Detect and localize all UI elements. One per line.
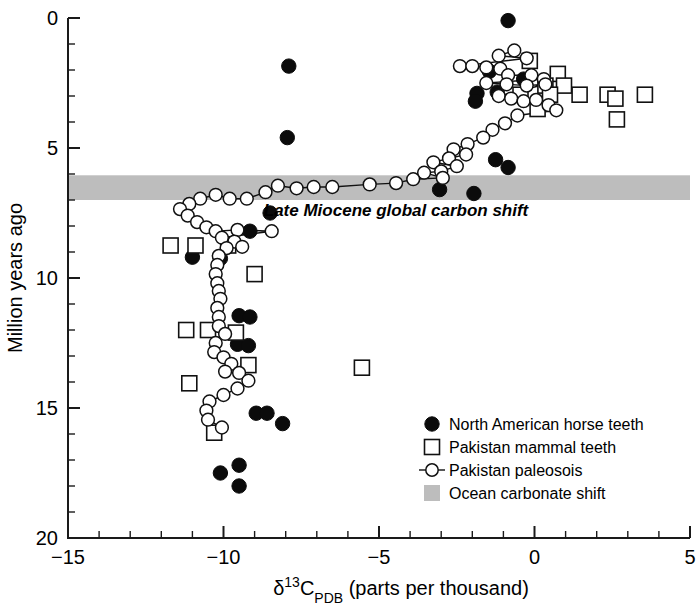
data-point-open-circle <box>363 178 376 191</box>
data-point-open-circle <box>539 78 552 91</box>
data-point-open-circle <box>236 240 249 253</box>
data-point-open-circle <box>520 79 533 92</box>
data-point-open-circle <box>231 224 244 237</box>
chart-figure: 05101520−15−10−505Million years agoδ13CP… <box>0 0 699 614</box>
legend-item-north-american-horse-teeth: North American horse teeth <box>425 416 644 433</box>
data-point-open-square <box>557 78 572 93</box>
ocean-carbonate-shift-band <box>68 175 690 200</box>
data-point-filled-circle <box>232 479 246 493</box>
legend-marker-filled-circle <box>425 417 439 431</box>
data-point-open-circle <box>460 148 473 161</box>
data-point-open-circle <box>217 389 230 402</box>
x-axis-label: δ13CPDB (parts per thousand) <box>273 574 529 606</box>
data-point-filled-circle <box>280 130 294 144</box>
data-point-open-circle <box>436 172 449 185</box>
data-point-open-circle <box>223 192 236 205</box>
legend-item-pakistan-paleosois: Pakistan paleosois <box>419 462 582 479</box>
legend-marker-open-square <box>425 440 440 455</box>
data-point-open-circle <box>492 49 505 62</box>
data-point-open-circle <box>272 179 285 192</box>
legend-label: North American horse teeth <box>449 416 644 433</box>
data-point-open-square <box>354 360 369 375</box>
legend-marker-gray-band <box>424 485 440 501</box>
data-point-open-circle <box>517 95 530 108</box>
x-axis-label-rest: (parts per thousand) <box>343 577 529 599</box>
x-axis-label-c: C <box>300 577 314 599</box>
y-axis-tick-label: 0 <box>47 7 58 29</box>
legend-item-ocean-carbonate-shift: Ocean carbonate shift <box>424 485 606 502</box>
data-point-open-circle <box>480 61 493 74</box>
data-point-open-circle <box>326 181 339 194</box>
legend-item-pakistan-mammal-teeth: Pakistan mammal teeth <box>425 439 617 456</box>
data-point-filled-circle <box>260 406 274 420</box>
data-point-open-circle <box>480 77 493 90</box>
data-point-open-circle <box>209 188 222 201</box>
data-point-filled-circle <box>467 186 481 200</box>
x-axis-label-subscript: PDB <box>314 590 343 606</box>
data-point-open-circle <box>259 186 272 199</box>
data-point-open-circle <box>500 78 513 91</box>
data-point-open-square <box>637 87 652 102</box>
data-point-open-circle <box>290 182 303 195</box>
data-point-filled-circle <box>213 466 227 480</box>
data-point-filled-circle <box>243 310 257 324</box>
data-point-filled-circle <box>282 59 296 73</box>
x-axis-tick-label: −10 <box>207 546 241 568</box>
data-point-filled-circle <box>468 94 482 108</box>
x-axis-tick-label: −5 <box>368 546 391 568</box>
data-point-open-square <box>608 91 623 106</box>
data-point-open-circle <box>508 44 521 57</box>
y-axis-tick-label: 15 <box>36 397 58 419</box>
plot-axes <box>68 18 690 538</box>
y-axis-label: Million years ago <box>4 203 26 353</box>
data-point-open-square <box>609 112 624 127</box>
data-point-open-circle <box>511 109 524 122</box>
data-point-filled-circle <box>501 160 515 174</box>
x-axis-tick-label: 0 <box>529 546 540 568</box>
data-point-open-circle <box>216 421 229 434</box>
x-axis-label-superscript: 13 <box>284 574 300 590</box>
data-point-open-circle <box>505 92 518 105</box>
data-point-open-circle <box>499 117 512 130</box>
data-point-open-circle <box>450 160 463 173</box>
data-point-open-square <box>247 267 262 282</box>
legend-label: Pakistan paleosois <box>449 462 582 479</box>
data-point-open-square <box>163 238 178 253</box>
data-point-filled-circle <box>488 153 502 167</box>
x-axis-label-delta: δ <box>273 577 284 599</box>
data-point-open-circle <box>265 225 278 238</box>
data-point-open-circle <box>477 131 490 144</box>
data-point-open-circle <box>454 60 467 73</box>
data-point-filled-circle <box>243 224 257 238</box>
data-point-open-square <box>188 238 203 253</box>
data-point-open-circle <box>219 365 232 378</box>
data-point-filled-circle <box>501 13 515 27</box>
data-point-open-circle <box>466 60 479 73</box>
y-axis-tick-label: 5 <box>47 137 58 159</box>
data-point-filled-circle <box>275 416 289 430</box>
y-axis-tick-label: 10 <box>36 267 58 289</box>
data-point-open-square <box>182 376 197 391</box>
x-axis-tick-label: 5 <box>684 546 695 568</box>
data-point-open-circle <box>407 173 420 186</box>
data-point-open-circle <box>202 413 215 426</box>
data-point-open-circle <box>520 52 533 65</box>
legend-label: Pakistan mammal teeth <box>449 439 616 456</box>
data-point-open-square <box>572 87 587 102</box>
data-point-open-circle <box>550 104 563 117</box>
data-point-open-square <box>179 323 194 338</box>
legend-label: Ocean carbonate shift <box>449 485 606 502</box>
legend-marker-open-circle <box>426 464 438 476</box>
carbon-isotope-scatter-plot: 05101520−15−10−505Million years agoδ13CP… <box>0 0 699 614</box>
band-annotation-label: Late Miocene global carbon shift <box>264 201 530 220</box>
data-point-open-circle <box>307 181 320 194</box>
data-point-open-circle <box>492 90 505 103</box>
data-point-open-circle <box>231 382 244 395</box>
data-point-open-circle <box>240 192 253 205</box>
data-point-filled-circle <box>232 458 246 472</box>
data-point-open-circle <box>242 374 255 387</box>
data-point-open-circle <box>530 94 543 107</box>
x-axis-tick-label: −15 <box>51 546 85 568</box>
data-point-open-circle <box>390 177 403 190</box>
